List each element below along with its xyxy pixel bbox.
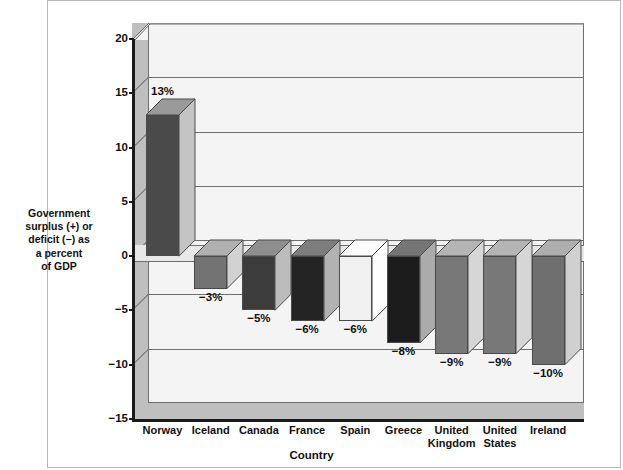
y-tick-label-15: 15 — [94, 87, 128, 98]
y-axis-title-line-5: of GDP — [22, 260, 96, 273]
bar-front-face — [435, 256, 468, 354]
bar-front-face — [242, 256, 275, 310]
y-tick-label-10: 10 — [94, 142, 128, 153]
x-tick-label-line: Ireland — [516, 424, 580, 437]
back-wall — [148, 23, 584, 403]
data-label-iceland: −3% — [183, 291, 238, 303]
y-tick-mark--15 — [129, 418, 134, 420]
bar-spain[interactable] — [339, 256, 372, 321]
y-tick-label-20: 20 — [94, 33, 128, 44]
y-tick-mark-0 — [129, 255, 134, 257]
bar-front-face — [146, 115, 179, 256]
data-label-greece: −8% — [376, 345, 431, 357]
bar-france[interactable] — [291, 256, 324, 321]
bar-ireland[interactable] — [532, 256, 565, 365]
zero-plane-back-edge — [148, 245, 584, 246]
data-label-spain: −6% — [328, 323, 383, 335]
floor-strip — [132, 403, 584, 420]
y-tick-label-5: 5 — [94, 196, 128, 207]
data-label-united-kingdom: −9% — [424, 356, 479, 368]
y-axis-title-line-1: Government — [22, 207, 96, 220]
y-tick-label--15: −15 — [94, 413, 128, 424]
y-axis-tick-labels: 20151050−5−10−15 — [94, 0, 128, 470]
bar-united-kingdom[interactable] — [435, 256, 468, 354]
gridline-5 — [148, 186, 584, 187]
y-tick-label--10: −10 — [94, 359, 128, 370]
gridline-0 — [148, 240, 584, 241]
y-tick-mark--5 — [129, 309, 134, 311]
y-axis-title: Government surplus (+) or deficit (−) as… — [22, 207, 96, 273]
gridline--10 — [148, 349, 584, 350]
y-tick-mark-10 — [129, 147, 134, 149]
chart-figure: Government surplus (+) or deficit (−) as… — [0, 0, 623, 470]
bar-front-face — [532, 256, 565, 365]
y-tick-mark-5 — [129, 201, 134, 203]
top-bevel-shape — [132, 23, 584, 40]
gridline-10 — [148, 132, 584, 133]
x-tick-label-ireland: Ireland — [516, 424, 580, 437]
gridline-15 — [148, 77, 584, 78]
y-tick-label-0: 0 — [94, 250, 128, 261]
data-label-norway: 13% — [135, 85, 190, 97]
y-axis-title-line-3: deficit (−) as — [22, 233, 96, 246]
bar-front-face — [387, 256, 420, 343]
data-label-france: −6% — [280, 323, 335, 335]
data-label-canada: −5% — [231, 312, 286, 324]
bar-front-face — [339, 256, 372, 321]
y-tick-mark-20 — [129, 38, 134, 40]
bar-front-face — [194, 256, 227, 289]
bar-front-face — [291, 256, 324, 321]
y-tick-mark-15 — [129, 92, 134, 94]
bar-greece[interactable] — [387, 256, 420, 343]
y-axis-title-line-2: surplus (+) or — [22, 220, 96, 233]
y-tick-mark--10 — [129, 364, 134, 366]
floor-front-edge — [132, 419, 584, 422]
data-label-united-states: −9% — [472, 356, 527, 368]
x-axis-title: Country — [0, 449, 623, 461]
bar-front-face — [483, 256, 516, 354]
top-bevel — [132, 23, 584, 40]
bar-norway[interactable] — [146, 115, 179, 256]
y-axis-title-line-4: a percent — [22, 247, 96, 260]
bar-united-states[interactable] — [483, 256, 516, 354]
bar-iceland[interactable] — [194, 256, 227, 289]
data-label-ireland: −10% — [521, 367, 576, 379]
bar-canada[interactable] — [242, 256, 275, 310]
y-tick-label--5: −5 — [94, 304, 128, 315]
